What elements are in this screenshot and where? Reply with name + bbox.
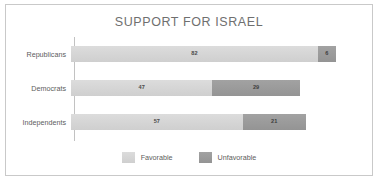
- legend-label-unfavorable: Unfavorable: [218, 153, 257, 162]
- chart-legend: Favorable Unfavorable: [6, 152, 372, 163]
- bar-segment-favorable: 82: [71, 46, 318, 62]
- bar-value-unfavorable: 29: [253, 85, 259, 91]
- bar-segment-unfavorable: 29: [212, 80, 299, 96]
- bar-segment-unfavorable: 6: [318, 46, 336, 62]
- category-label-republicans: Republicans: [6, 50, 70, 59]
- bar-value-unfavorable: 6: [325, 51, 328, 57]
- bar-segment-favorable: 47: [71, 80, 212, 96]
- bar-value-favorable: 47: [139, 85, 145, 91]
- bar-value-favorable: 82: [191, 51, 197, 57]
- legend-label-favorable: Favorable: [141, 153, 173, 162]
- bar-track: 82 6: [71, 37, 372, 71]
- bar-row: Independents 57 21: [6, 105, 372, 139]
- chart-title: SUPPORT FOR ISRAEL: [6, 15, 372, 29]
- bar-stack-independents: 57 21: [71, 114, 306, 130]
- bar-value-favorable: 57: [154, 119, 160, 125]
- legend-swatch-icon: [122, 152, 135, 163]
- bar-segment-favorable: 57: [71, 114, 243, 130]
- bar-segment-unfavorable: 21: [243, 114, 306, 130]
- bar-rows: Republicans 82 6 Democrats: [6, 35, 372, 143]
- bar-stack-democrats: 47 29: [71, 80, 300, 96]
- legend-item-unfavorable: Unfavorable: [199, 152, 257, 163]
- chart-container: SUPPORT FOR ISRAEL Republicans 82 6: [5, 4, 373, 176]
- bar-track: 47 29: [71, 71, 372, 105]
- category-label-independents: Independents: [6, 118, 70, 127]
- legend-item-favorable: Favorable: [122, 152, 173, 163]
- bar-track: 57 21: [71, 105, 372, 139]
- bar-stack-republicans: 82 6: [71, 46, 336, 62]
- category-label-democrats: Democrats: [6, 84, 70, 93]
- legend-swatch-icon: [199, 152, 212, 163]
- bar-row: Republicans 82 6: [6, 37, 372, 71]
- bar-row: Democrats 47 29: [6, 71, 372, 105]
- bar-value-unfavorable: 21: [271, 119, 277, 125]
- plot-area: Republicans 82 6 Democrats: [6, 35, 372, 143]
